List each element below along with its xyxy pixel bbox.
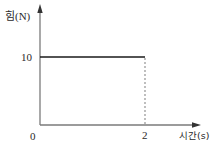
x-axis-arrow-icon xyxy=(192,122,201,127)
x-tick-2: 2 xyxy=(142,129,148,141)
force-time-chart: 힘(N) 10 0 2 시간(s) xyxy=(0,0,214,152)
x-axis-label: 시간(s) xyxy=(179,130,209,142)
y-tick-10: 10 xyxy=(21,51,32,63)
y-axis-label: 힘(N) xyxy=(5,10,30,22)
y-axis-arrow-icon xyxy=(37,4,42,13)
origin-label: 0 xyxy=(30,130,36,142)
